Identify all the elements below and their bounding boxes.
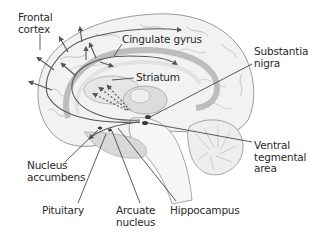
cerebellum <box>188 120 243 175</box>
label-substantia-nigra: Substantia nigra <box>254 46 308 69</box>
arcuate-mark <box>108 128 112 131</box>
label-pituitary: Pituitary <box>42 205 84 217</box>
label-striatum: Striatum <box>136 72 180 84</box>
label-arcuate-nucleus: Arcuate nucleus <box>116 205 155 228</box>
label-cingulate-gyrus: Cingulate gyrus <box>122 34 202 46</box>
label-frontal-cortex: Frontal cortex <box>18 12 53 35</box>
brain-diagram: Frontal cortex Cingulate gyrus Striatum … <box>0 0 316 240</box>
label-hippocampus: Hippocampus <box>170 205 240 217</box>
label-nucleus-accumbens: Nucleus accumbens <box>27 160 85 183</box>
label-ventral-tegmental-area: Ventral tegmental area <box>254 140 306 175</box>
accumbens-mark <box>98 126 102 129</box>
vta-mark <box>142 121 148 125</box>
